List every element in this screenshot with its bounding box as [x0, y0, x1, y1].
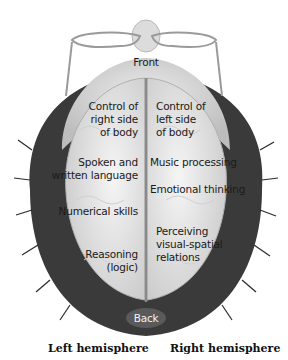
right-function-emotional: Emotional thinking: [150, 183, 245, 196]
head-illustration: [0, 0, 288, 360]
left-function-reasoning: Reasoning (logic): [85, 248, 138, 274]
left-function-control: Control of right side of body: [89, 100, 138, 139]
right-hemisphere-label: Right hemisphere: [170, 342, 280, 355]
left-function-language: Spoken and written language: [52, 156, 138, 182]
back-label: Back: [126, 312, 166, 325]
right-function-control: Control of left side of body: [156, 100, 205, 139]
front-label: Front: [124, 56, 168, 69]
left-function-numerical: Numerical skills: [59, 205, 138, 218]
brain-diagram: Front Control of right side of body Spok…: [0, 0, 288, 360]
right-function-visual-spatial: Perceiving visual-spatial relations: [156, 225, 223, 264]
right-function-music: Music processing: [150, 156, 237, 169]
left-hemisphere-label: Left hemisphere: [48, 342, 149, 355]
